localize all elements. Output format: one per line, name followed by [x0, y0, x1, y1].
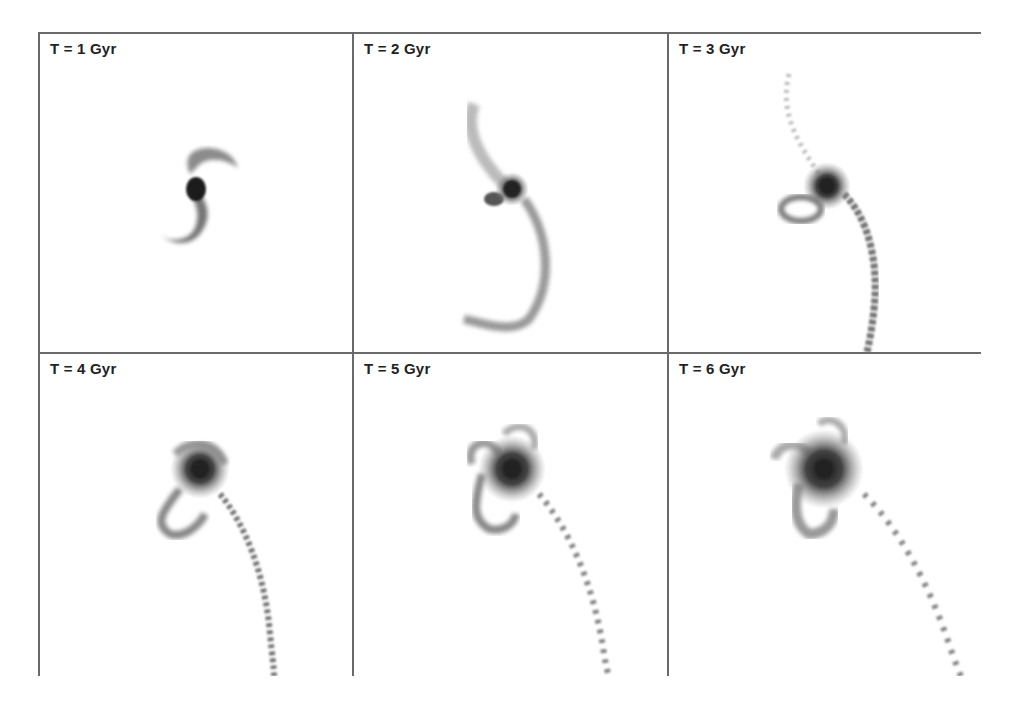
panel-label: T = 2 Gyr [364, 40, 430, 57]
panel-t2: T = 2 Gyr [354, 34, 667, 352]
galaxy-snapshot-t4 [40, 354, 352, 676]
panel-t4: T = 4 Gyr [40, 354, 352, 676]
galaxy-snapshot-t2 [354, 34, 667, 352]
figure-grid: T = 1 Gyr T = 2 Gyr T = 3 Gyr [38, 32, 981, 676]
panel-label: T = 6 Gyr [679, 360, 745, 377]
galaxy-snapshot-t5 [354, 354, 667, 676]
galaxy-snapshot-t3 [669, 34, 981, 352]
cropped-caption-remnant [0, 0, 1015, 8]
panel-t1: T = 1 Gyr [40, 34, 352, 352]
panel-label: T = 3 Gyr [679, 40, 745, 57]
panel-t6: T = 6 Gyr [669, 354, 981, 676]
galaxy-snapshot-t1 [40, 34, 352, 352]
panel-label: T = 4 Gyr [50, 360, 116, 377]
galaxy-snapshot-t6 [669, 354, 981, 676]
panel-label: T = 1 Gyr [50, 40, 116, 57]
panel-t3: T = 3 Gyr [669, 34, 981, 352]
panel-t5: T = 5 Gyr [354, 354, 667, 676]
panel-label: T = 5 Gyr [364, 360, 430, 377]
